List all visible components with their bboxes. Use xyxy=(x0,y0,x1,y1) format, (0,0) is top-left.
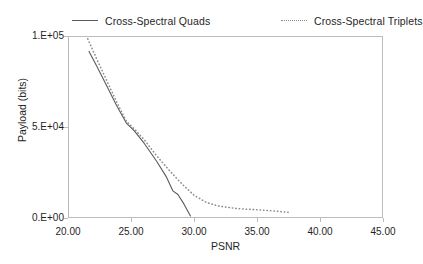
x-tick-label: 20.00 xyxy=(38,227,98,237)
x-tick-label: 30.00 xyxy=(164,227,224,237)
series-line-triplets xyxy=(88,39,288,213)
plot-area xyxy=(68,36,383,218)
x-tick-mark xyxy=(257,218,258,222)
legend-line-dotted-icon xyxy=(281,16,307,26)
series-canvas xyxy=(69,37,382,217)
y-tick-label: 1.E+05 xyxy=(4,31,64,41)
x-tick-label: 45.00 xyxy=(353,227,413,237)
legend-label-triplets: Cross-Spectral Triplets xyxy=(314,15,423,27)
y-tick-mark xyxy=(64,218,68,219)
legend-entry-quads: Cross-Spectral Quads xyxy=(72,12,210,30)
x-tick-label: 40.00 xyxy=(290,227,350,237)
legend-entry-triplets: Cross-Spectral Triplets xyxy=(281,12,423,30)
chart-legend: Cross-Spectral Quads Cross-Spectral Trip… xyxy=(0,12,411,30)
x-tick-mark xyxy=(194,218,195,222)
x-tick-mark xyxy=(131,218,132,222)
legend-label-quads: Cross-Spectral Quads xyxy=(105,15,210,27)
x-tick-label: 35.00 xyxy=(227,227,287,237)
x-tick-mark xyxy=(383,218,384,222)
x-axis-title: PSNR xyxy=(68,240,383,252)
series-line-quads xyxy=(89,51,190,216)
x-tick-label: 25.00 xyxy=(101,227,161,237)
legend-line-solid-icon xyxy=(72,16,98,26)
y-axis-title: Payload (bits) xyxy=(16,50,28,170)
y-tick-label: 0.E+00 xyxy=(4,213,64,223)
y-tick-label: 5.E+04 xyxy=(4,122,64,132)
x-tick-mark xyxy=(320,218,321,222)
